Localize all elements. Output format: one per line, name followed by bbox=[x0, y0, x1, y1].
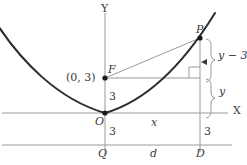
point-p-marker bbox=[197, 35, 202, 40]
parabola-figure: Y X O F (0, 3) P D Q 3 3 3 x d y − 3 y bbox=[0, 0, 247, 165]
point-focus-label: F bbox=[108, 64, 116, 75]
segment-d-label: d bbox=[150, 148, 157, 159]
figure-canvas bbox=[0, 0, 247, 165]
x-axis-label: X bbox=[233, 105, 241, 116]
segment-x-label: x bbox=[151, 117, 157, 128]
point-q-label: Q bbox=[98, 148, 107, 159]
point-origin-label: O bbox=[95, 116, 104, 127]
segment-origin-to-directrix-label: 3 bbox=[109, 126, 116, 137]
focus-to-p-segment bbox=[105, 38, 200, 78]
brace-upper-label: y − 3 bbox=[218, 50, 247, 61]
brace-lower-label: y bbox=[219, 86, 225, 97]
segment-focus-to-origin-label: 3 bbox=[109, 91, 116, 102]
point-d-label: D bbox=[196, 148, 205, 159]
brace-y bbox=[206, 79, 215, 118]
brace-pointer-arrow-icon bbox=[201, 59, 207, 65]
focus-coordinates-label: (0, 3) bbox=[66, 72, 96, 83]
point-p-label: P bbox=[196, 24, 203, 35]
segment-foot-to-directrix-label: 3 bbox=[204, 126, 211, 137]
right-angle-marker bbox=[189, 67, 200, 78]
y-axis-label: Y bbox=[101, 3, 108, 14]
brace-y-minus-3 bbox=[206, 39, 215, 82]
point-focus-marker bbox=[102, 75, 107, 80]
